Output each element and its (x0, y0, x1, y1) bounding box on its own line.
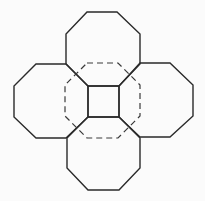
octagon-square-tiling-diagram (0, 0, 205, 201)
center-square (88, 86, 119, 117)
octagon-left (14, 64, 88, 138)
octagon-bottom (67, 117, 140, 190)
octagon-right (119, 63, 193, 137)
